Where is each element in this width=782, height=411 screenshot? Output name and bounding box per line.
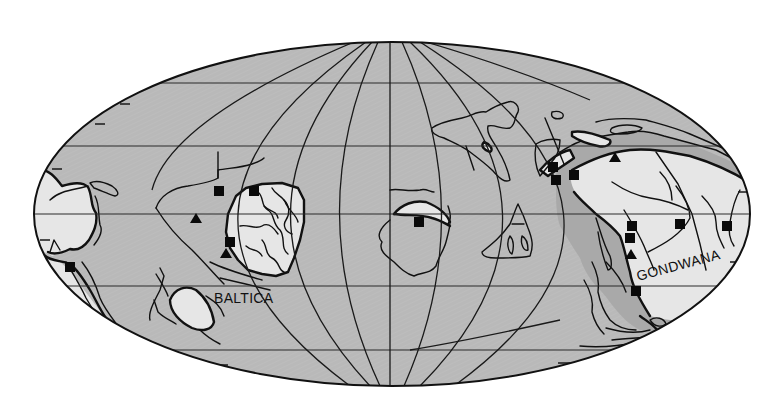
square-marker bbox=[627, 221, 637, 231]
square-marker bbox=[551, 175, 561, 185]
square-marker bbox=[631, 286, 641, 296]
paleogeographic-map: BALTICA GONDWANA bbox=[0, 0, 782, 411]
square-marker bbox=[548, 162, 558, 172]
square-marker bbox=[214, 186, 224, 196]
square-marker bbox=[225, 237, 235, 247]
square-marker bbox=[414, 217, 424, 227]
baltica-label: BALTICA bbox=[214, 290, 274, 306]
square-marker bbox=[569, 170, 579, 180]
square-marker bbox=[249, 186, 259, 196]
square-marker bbox=[722, 221, 732, 231]
square-marker bbox=[65, 262, 75, 272]
square-marker bbox=[675, 219, 685, 229]
square-marker bbox=[625, 233, 635, 243]
